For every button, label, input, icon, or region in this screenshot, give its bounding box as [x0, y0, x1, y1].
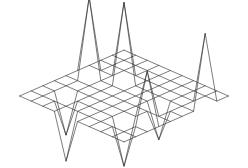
mesh-row-8: [31, 91, 135, 137]
mesh-column-8: [112, 71, 216, 137]
mesh-column-1: [31, 0, 135, 101]
mesh-column-lines: [20, 0, 229, 166]
mesh-column-0: [20, 50, 124, 96]
wireframe-mesh-plot: [0, 0, 248, 168]
mesh-surface-svg: [0, 0, 248, 168]
mesh-row-lines: [20, 0, 229, 166]
mesh-column-6: [89, 81, 193, 127]
mesh-row-2: [101, 33, 205, 101]
mesh-row-5: [66, 76, 170, 122]
mesh-column-3: [54, 2, 158, 111]
mesh-row-0: [124, 50, 228, 96]
